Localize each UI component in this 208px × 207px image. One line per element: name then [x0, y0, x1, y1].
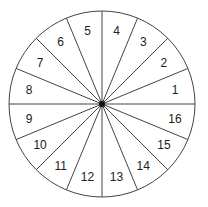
segment-label-10: 10 [33, 138, 47, 152]
segment-label-5: 5 [84, 24, 91, 38]
segment-label-3: 3 [140, 35, 147, 49]
segment-label-15: 15 [157, 138, 171, 152]
segment-label-4: 4 [113, 24, 120, 38]
segment-label-2: 2 [161, 56, 168, 70]
segment-label-6: 6 [57, 35, 64, 49]
segment-label-9: 9 [26, 112, 33, 126]
segment-label-8: 8 [26, 83, 33, 97]
segment-label-14: 14 [137, 159, 151, 173]
segment-label-1: 1 [172, 83, 179, 97]
segment-label-16: 16 [168, 112, 182, 126]
segment-label-13: 13 [110, 170, 124, 184]
segmented-wheel-diagram: 12345678910111213141516 [0, 0, 208, 207]
segment-label-7: 7 [37, 56, 44, 70]
segment-label-12: 12 [81, 170, 95, 184]
segment-label-11: 11 [54, 159, 67, 173]
hub-dot [99, 101, 105, 107]
